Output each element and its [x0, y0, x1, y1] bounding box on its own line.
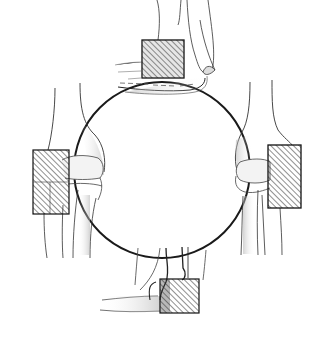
- hatched-region-right: [268, 145, 301, 208]
- top-elbow-view: [115, 0, 215, 94]
- right-elbow-view: [235, 80, 301, 255]
- elbow-diagram: Anatomical illustration: four views of t…: [0, 0, 323, 338]
- left-elbow-view: [33, 83, 105, 258]
